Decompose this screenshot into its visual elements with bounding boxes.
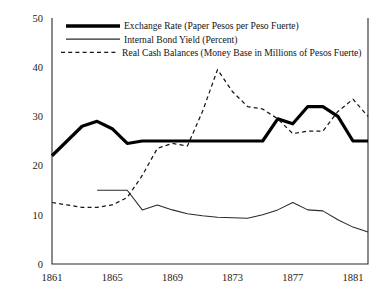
x-tick-label: 1877 <box>282 272 303 283</box>
y-tick-label: 0 <box>38 259 43 270</box>
x-tick-label: 1865 <box>102 272 123 283</box>
series-internal-bond-yield <box>97 190 368 232</box>
y-tick-label: 20 <box>33 160 44 171</box>
x-tick-label: 1861 <box>42 272 63 283</box>
x-axis-tick-labels: 186118651869187318771881 <box>42 272 364 283</box>
y-tick-label: 40 <box>33 62 44 73</box>
legend-label: Internal Bond Yield (Percent) <box>124 34 237 46</box>
x-tick-label: 1873 <box>222 272 243 283</box>
y-tick-label: 50 <box>33 13 44 24</box>
y-tick-label: 30 <box>33 111 44 122</box>
x-tick-label: 1869 <box>162 272 183 283</box>
series-layer <box>52 70 368 232</box>
legend-label: Real Cash Balances (Money Base in Millio… <box>122 47 362 59</box>
series-exchange-rate <box>52 107 368 156</box>
line-chart: 01020304050 186118651869187318771881 Exc… <box>0 0 384 299</box>
legend-label: Exchange Rate (Paper Pesos per Peso Fuer… <box>124 20 299 32</box>
x-tick-label: 1881 <box>342 272 363 283</box>
y-tick-label: 10 <box>33 210 44 221</box>
y-axis-tick-labels: 01020304050 <box>33 13 44 270</box>
chart-container: 01020304050 186118651869187318771881 Exc… <box>0 0 384 299</box>
chart-legend: Exchange Rate (Paper Pesos per Peso Fuer… <box>61 20 362 58</box>
series-real-cash-balances <box>52 70 368 208</box>
